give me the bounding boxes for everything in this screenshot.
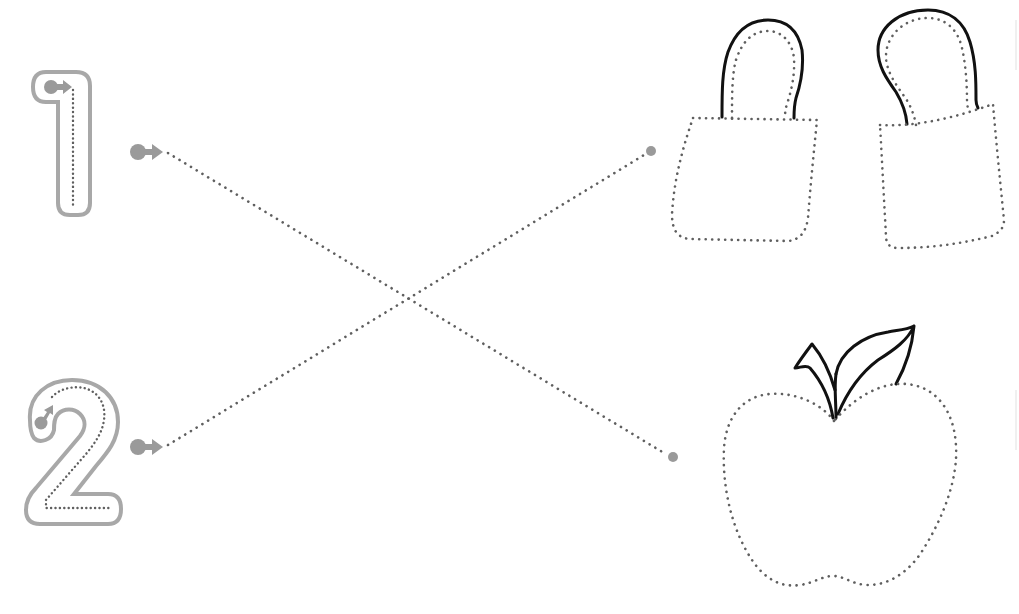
- end-dot-icon: [668, 452, 678, 462]
- apple-stem: [835, 374, 836, 418]
- bag-2-body-trace: [880, 104, 1004, 248]
- number-1-tracing[interactable]: [33, 72, 90, 215]
- worksheet-canvas: [0, 0, 1019, 614]
- bag-1-handle-trace: [732, 31, 794, 118]
- number-2-tracing[interactable]: [26, 380, 121, 524]
- start-dot-icon: [130, 144, 146, 160]
- end-dot-icon: [646, 146, 656, 156]
- arrow-right-icon: [144, 439, 163, 455]
- dotted-connector: [168, 155, 644, 445]
- apple-right-leaf: [836, 326, 914, 414]
- number-2-outline: [26, 380, 121, 524]
- bag-2-handle-outline: [878, 10, 978, 124]
- apple-icon[interactable]: [724, 326, 956, 586]
- matching-line-1-to-apple[interactable]: [130, 144, 678, 462]
- bag-1-body-trace: [672, 118, 817, 241]
- start-dot-icon: [44, 80, 58, 94]
- arrow-right-icon: [144, 144, 163, 160]
- bag-1-handle-outline: [722, 20, 803, 118]
- shopping-bag-icon[interactable]: [878, 10, 1004, 248]
- matching-line-2-to-bags[interactable]: [130, 146, 656, 455]
- number-1-outline: [33, 72, 90, 215]
- start-dot-icon: [130, 439, 146, 455]
- dotted-connector: [168, 153, 664, 453]
- apple-left-leaf: [795, 344, 835, 418]
- bag-2-handle-trace: [886, 18, 969, 125]
- apple-body-trace: [724, 384, 956, 586]
- tracing-worksheet: 1 2 two bags one apple: [0, 0, 1019, 614]
- shopping-bag-icon[interactable]: [672, 20, 817, 241]
